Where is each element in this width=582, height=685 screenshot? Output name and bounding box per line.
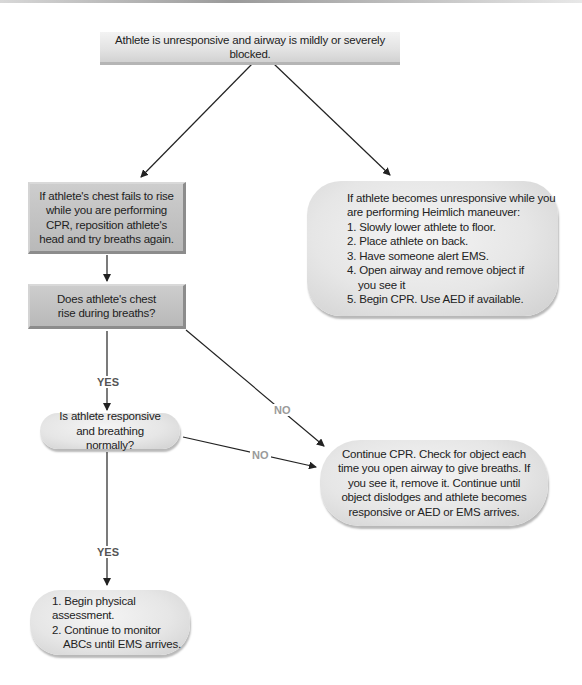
node-heimlich-intro: If athlete becomes unresponsive while yo… — [347, 191, 558, 220]
assessment-step: 1. Begin physical assessment. — [52, 594, 190, 623]
arrow-chest-rise-no — [186, 330, 324, 446]
node-start-text: Athlete is unresponsive and airway is mi… — [100, 33, 400, 62]
heimlich-step: 2. Place athlete on back. — [347, 234, 558, 249]
node-assessment: 1. Begin physical assessment. 2. Continu… — [30, 590, 190, 655]
node-heimlich-steps: 1. Slowly lower athlete to floor. 2. Pla… — [347, 220, 558, 307]
heimlich-step: 3. Have someone alert EMS. — [347, 249, 558, 264]
node-responsive: Is athlete responsive and breathing norm… — [40, 413, 180, 449]
node-assessment-steps: 1. Begin physical assessment. 2. Continu… — [52, 594, 190, 652]
edge-label-yes-1: YES — [95, 376, 121, 388]
assessment-step: 2. Continue to monitor — [52, 623, 190, 638]
node-chest-rise: Does athlete's chest rise during breaths… — [28, 284, 186, 329]
connector-arrows — [0, 0, 582, 685]
node-reposition: If athlete's chest fails to rise while y… — [28, 182, 186, 254]
arrow-start-to-reposition — [141, 64, 252, 177]
node-chest-rise-text: Does athlete's chest rise during breaths… — [48, 292, 165, 321]
node-heimlich: If athlete becomes unresponsive while yo… — [307, 181, 558, 316]
edge-label-yes-2: YES — [95, 546, 121, 558]
heimlich-step: 5. Begin CPR. Use AED if available. — [347, 292, 558, 307]
node-continue-cpr-text: Continue CPR. Check for object each time… — [336, 447, 532, 520]
edge-label-no-2: NO — [250, 449, 271, 461]
node-reposition-text: If athlete's chest fails to rise while y… — [36, 189, 177, 247]
node-responsive-text: Is athlete responsive and breathing norm… — [58, 409, 162, 453]
heimlich-step: 1. Slowly lower athlete to floor. — [347, 220, 558, 235]
edge-label-no-1: NO — [272, 404, 293, 416]
arrow-start-to-heimlich — [274, 64, 390, 175]
node-start: Athlete is unresponsive and airway is mi… — [100, 32, 400, 65]
heimlich-step-continued: you see it — [347, 278, 558, 293]
node-continue-cpr: Continue CPR. Check for object each time… — [320, 440, 548, 526]
heimlich-step: 4. Open airway and remove object if — [347, 263, 558, 278]
assessment-step-continued: ABCs until EMS arrives. — [52, 637, 190, 652]
